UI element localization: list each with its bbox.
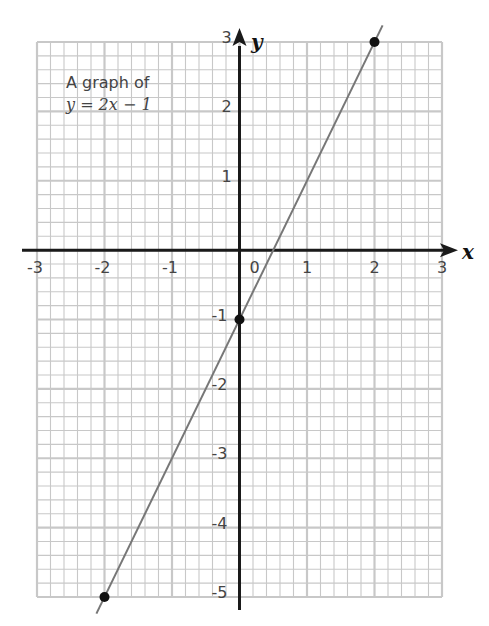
y-tick-label: -2 xyxy=(212,377,228,393)
x-tick-label: -3 xyxy=(27,260,43,276)
data-point xyxy=(235,315,245,325)
y-tick-label: -5 xyxy=(212,585,228,601)
y-tick-label: 1 xyxy=(222,169,232,185)
x-tick-label: 3 xyxy=(437,260,447,276)
title-line: A graph of xyxy=(66,72,152,94)
y-tick-label: -4 xyxy=(212,516,228,532)
data-point xyxy=(100,592,110,602)
y-tick-label: -3 xyxy=(212,446,228,462)
x-axis-label: x xyxy=(462,240,474,264)
chart-title: A graph of y = 2x − 1 xyxy=(66,72,152,116)
data-point xyxy=(370,37,380,47)
y-axis-label: y xyxy=(251,30,263,54)
y-tick-label: 3 xyxy=(222,30,232,46)
y-tick-label: 2 xyxy=(222,99,232,115)
y-tick-label: -1 xyxy=(212,308,228,324)
x-tick-label: 2 xyxy=(370,260,380,276)
equation-label: y = 2x − 1 xyxy=(66,94,152,116)
x-tick-label: 1 xyxy=(302,260,312,276)
x-tick-label: -1 xyxy=(162,260,178,276)
x-tick-label: 0 xyxy=(250,260,260,276)
x-tick-label: -2 xyxy=(95,260,111,276)
